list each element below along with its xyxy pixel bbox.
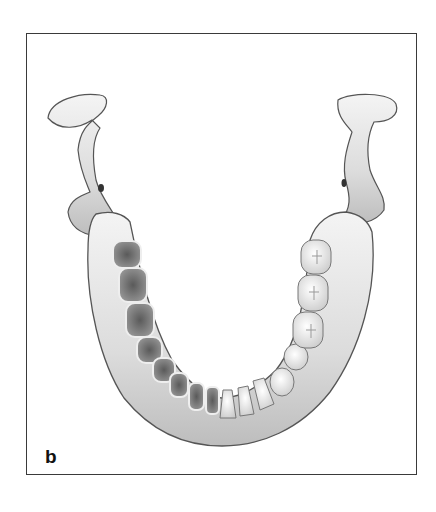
- mandible-illustration: [0, 0, 436, 512]
- right-condyle: [338, 94, 397, 223]
- panel-label: b: [45, 446, 57, 468]
